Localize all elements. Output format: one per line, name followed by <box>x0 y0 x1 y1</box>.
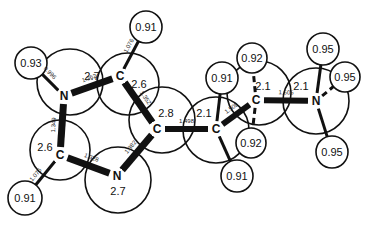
molecule-diagram: 0.9961.3621.0761.3521.3821.3281.3491.076… <box>0 0 373 225</box>
atom-shell-value: 2.6 <box>37 141 52 153</box>
atom-shell-value: 2.6 <box>131 78 146 90</box>
atom-shell-value: 2.8 <box>158 107 173 119</box>
atom-symbol-n1: N <box>60 89 69 103</box>
atom-symbol-nplus: N <box>312 94 321 108</box>
hydrogen-value: 0.91 <box>135 21 156 33</box>
hydrogen-value: 0.91 <box>226 170 247 182</box>
atom-symbol-cb: C <box>212 122 221 136</box>
hydrogen-value: 0.91 <box>14 192 35 204</box>
hydrogen-value: 0.95 <box>312 43 333 55</box>
hydrogen-value: 0.95 <box>321 146 342 158</box>
hydrogen-value: 0.92 <box>241 52 262 64</box>
bond-length-label: 1.349 <box>50 117 57 133</box>
atom-shell-value: 2.1 <box>293 80 308 92</box>
bonds <box>26 29 343 197</box>
atom-shell-value: 2.7 <box>110 185 125 197</box>
bond-ca-nplus <box>264 100 308 101</box>
hydrogen-value: 0.93 <box>20 57 41 69</box>
hydrogen-value: 0.95 <box>334 71 355 83</box>
atom-symbol-c5: C <box>56 148 65 162</box>
hydrogen-value: 0.92 <box>240 137 261 149</box>
bond-length-label: 1.505 <box>279 89 295 95</box>
atom-symbol-ca: C <box>252 93 261 107</box>
bond-c5-n1 <box>61 104 64 147</box>
atom-symbol-c2: C <box>116 69 125 83</box>
atom-symbol-c4: C <box>153 122 162 136</box>
hydrogen-value: 0.91 <box>211 72 232 84</box>
atom-shell-value: 2.7 <box>84 70 99 82</box>
atom-shell-value: 2.1 <box>196 107 211 119</box>
bond-length-label: 1.498 <box>179 118 195 124</box>
atom-shell-value: 2.1 <box>255 80 270 92</box>
atom-symbol-n3: N <box>113 169 122 183</box>
